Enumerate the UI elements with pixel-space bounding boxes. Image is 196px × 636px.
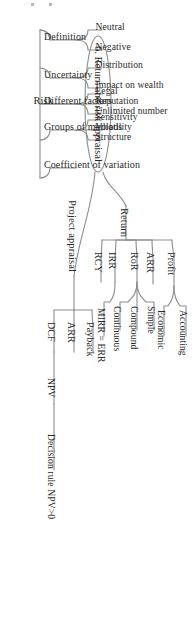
node-payback: Payback xyxy=(85,322,95,357)
node-dcf: DCF xyxy=(46,322,56,342)
diagram-viewport: 6. Return and risk appraisal Return Prof… xyxy=(0,0,196,636)
node-economic: Economic xyxy=(156,310,166,350)
node-structure: Structure xyxy=(95,132,131,142)
node-accounting: Accounting xyxy=(178,310,188,356)
node-neutral: Neutral xyxy=(95,22,124,32)
node-arr-return: ARR xyxy=(145,252,155,273)
node-ror: RoR xyxy=(129,252,139,271)
node-negative: Negative xyxy=(95,42,130,52)
node-arr-appraisal: ARR xyxy=(66,322,76,343)
node-compound: Compound xyxy=(129,306,139,349)
node-definition: Definition xyxy=(44,32,86,42)
node-profit: Profit xyxy=(166,252,176,275)
node-mirr-err: MIRR = ERR xyxy=(96,308,106,362)
node-distribution: Distribution xyxy=(95,60,143,70)
node-coefficient-of-variation: Coefficient of variation xyxy=(44,160,140,170)
node-irr: IRR xyxy=(107,252,117,269)
node-uncertainty: Uncertainty xyxy=(44,70,92,80)
node-project-appraisal: Project appraisal xyxy=(67,200,78,272)
node-simple: Simple xyxy=(146,306,156,334)
node-decision-rule: Decision rule NPV>0 xyxy=(46,434,56,519)
node-npv: NPV xyxy=(46,378,56,398)
node-rcy: RCY xyxy=(93,252,103,273)
node-return: Return xyxy=(119,208,130,237)
mindmap-canvas: 6. Return and risk appraisal Return Prof… xyxy=(0,0,196,636)
node-continuous: Continuous xyxy=(112,306,122,351)
